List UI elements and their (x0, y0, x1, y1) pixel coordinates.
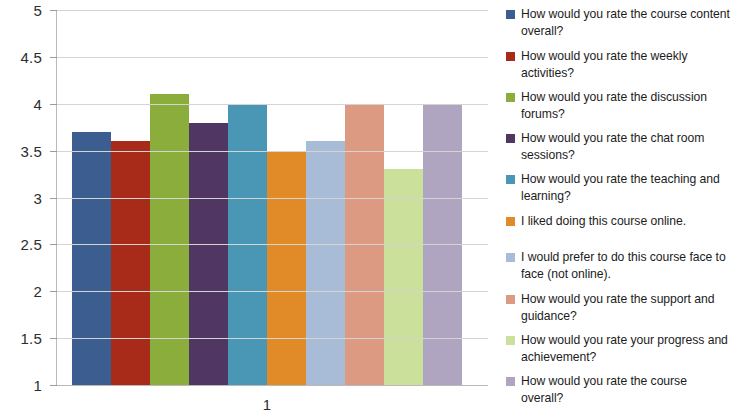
bar (306, 141, 345, 385)
y-axis-tick (50, 151, 57, 152)
legend-item[interactable]: I liked doing this course online. (506, 213, 730, 230)
legend-item[interactable]: How would you rate the course content ov… (506, 6, 730, 39)
legend-item[interactable]: How would you rate the support and guida… (506, 291, 730, 324)
gridline (56, 244, 488, 245)
gridline (56, 151, 488, 152)
legend-item-label: How would you rate the course overall? (521, 373, 730, 406)
y-axis-tick (50, 338, 57, 339)
y-axis-tick (50, 10, 57, 11)
legend-color-swatch (506, 10, 515, 19)
legend-item[interactable]: How would you rate the weekly activities… (506, 48, 730, 81)
legend-color-swatch (506, 52, 515, 61)
legend-item-label: How would you rate your progress and ach… (521, 332, 730, 365)
legend-item[interactable]: How would you rate the chat room session… (506, 130, 730, 163)
legend-item-label: I would prefer to do this course face to… (521, 249, 730, 282)
y-axis-tick (50, 244, 57, 245)
legend-item-label: How would you rate the discussion forums… (521, 89, 730, 122)
gridline (56, 10, 488, 11)
bar-chart: 54.543.532.521.51 1 How would you rate t… (0, 0, 730, 413)
legend-color-swatch (506, 134, 515, 143)
bar (267, 151, 306, 385)
gridline (56, 338, 488, 339)
chart-legend: How would you rate the course content ov… (506, 0, 730, 413)
legend-item-label: How would you rate the chat room session… (521, 130, 730, 163)
gridline (56, 198, 488, 199)
legend-color-swatch (506, 253, 515, 262)
plot-area: 54.543.532.521.51 1 (0, 0, 500, 413)
bar (384, 169, 423, 385)
bar (72, 132, 111, 385)
legend-color-swatch (506, 175, 515, 184)
gridline (56, 385, 488, 386)
legend-item-label: How would you rate the course content ov… (521, 6, 730, 39)
y-axis-tick (50, 291, 57, 292)
y-axis-tick (50, 57, 57, 58)
legend-color-swatch (506, 93, 515, 102)
legend-item-label: I liked doing this course online. (521, 213, 730, 230)
legend-item[interactable]: How would you rate your progress and ach… (506, 332, 730, 365)
bar (189, 123, 228, 386)
legend-color-swatch (506, 217, 515, 226)
legend-item[interactable]: I would prefer to do this course face to… (506, 249, 730, 282)
legend-color-swatch (506, 377, 515, 386)
x-axis: 1 (56, 390, 488, 413)
x-axis-tick-label: 1 (263, 396, 271, 413)
legend-color-swatch (506, 295, 515, 304)
bar (150, 94, 189, 385)
legend-color-swatch (506, 336, 515, 345)
legend-item-label: How would you rate the support and guida… (521, 291, 730, 324)
gridline (56, 291, 488, 292)
legend-item[interactable]: How would you rate the discussion forums… (506, 89, 730, 122)
y-axis-tick (50, 198, 57, 199)
bars-container (0, 0, 500, 413)
y-axis-tick (50, 104, 57, 105)
bar (111, 141, 150, 385)
gridline (56, 104, 488, 105)
legend-item[interactable]: How would you rate the course overall? (506, 373, 730, 406)
legend-item[interactable]: How would you rate the teaching and lear… (506, 171, 730, 204)
y-axis-tick (50, 385, 57, 386)
legend-item-label: How would you rate the teaching and lear… (521, 171, 730, 204)
legend-item-label: How would you rate the weekly activities… (521, 48, 730, 81)
gridline (56, 57, 488, 58)
